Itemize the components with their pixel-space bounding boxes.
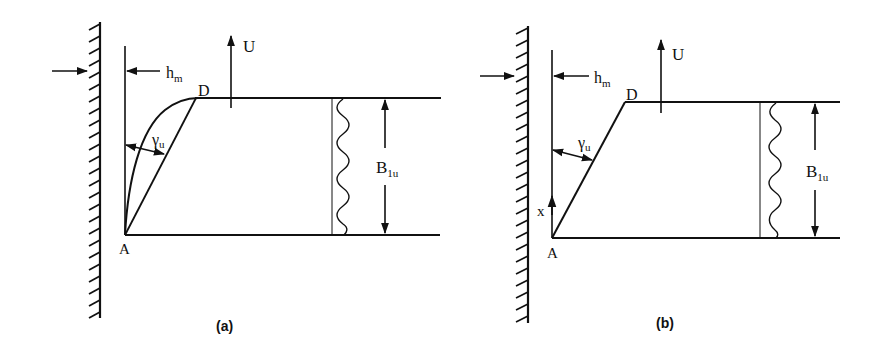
width-label-a: B1u [376, 158, 399, 179]
x-label-b: x [537, 203, 545, 219]
wall-a [89, 22, 100, 318]
caption-b: (b) [656, 315, 674, 331]
point-a-label-b: A [547, 245, 558, 261]
uplift-label-b: U [672, 45, 684, 64]
caption-a: (a) [216, 318, 233, 334]
width-label-b: B1u [806, 162, 829, 183]
hm-label-a: hm [166, 64, 183, 84]
panel-a: hm γu U D A B1u (a) [52, 22, 441, 334]
panel-b: hm γu x U D A B1u (b) [480, 26, 840, 331]
failure-line-b [552, 102, 625, 238]
figure-canvas: hm γu U D A B1u (a) [0, 0, 880, 353]
gamma-label-a: γu [151, 131, 165, 150]
uplift-label-a: U [243, 37, 255, 56]
gamma-label-b: γu [577, 134, 591, 153]
hm-label-b: hm [594, 69, 611, 89]
point-d-label-b: D [626, 86, 638, 103]
wavy-break-b [769, 103, 781, 238]
wall-b [516, 26, 528, 323]
point-d-label-a: D [198, 82, 210, 99]
wavy-break-a [337, 99, 349, 235]
point-a-label-a: A [119, 241, 130, 257]
